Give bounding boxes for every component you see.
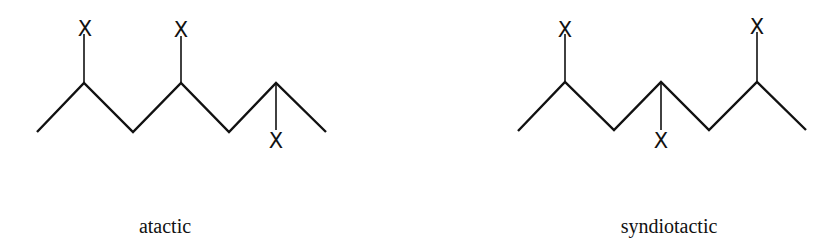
syndiotactic-caption: syndiotactic — [621, 215, 718, 238]
substituent-x-label: X — [654, 129, 668, 153]
atactic-caption: atactic — [139, 215, 191, 237]
syndiotactic-substituents: XXX — [558, 15, 764, 153]
substituent-x-label: X — [750, 15, 764, 39]
atactic-backbone-chain — [37, 83, 326, 132]
syndiotactic-backbone-chain — [518, 82, 806, 131]
substituent-x-label: X — [558, 18, 572, 42]
syndiotactic-structure: XXX syndiotactic — [518, 15, 806, 238]
substituent-x-label: X — [78, 17, 92, 41]
tacticity-diagram: XXX atactic XXX syndiotactic — [0, 0, 820, 245]
atactic-structure: XXX atactic — [37, 17, 326, 237]
substituent-x-label: X — [269, 129, 283, 153]
substituent-x-label: X — [174, 18, 188, 42]
